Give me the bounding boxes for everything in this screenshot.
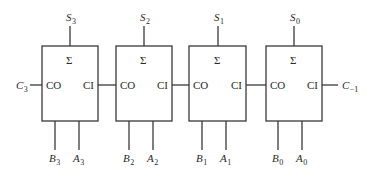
carry-out-label: C3: [16, 80, 28, 92]
co-label: CO: [270, 80, 285, 91]
co-label: CO: [120, 80, 135, 91]
sigma-label: Σ: [140, 55, 146, 66]
sigma-label: Σ: [290, 55, 296, 66]
input-label-b0: B0: [272, 153, 283, 165]
sum-label-s1: S1: [214, 12, 224, 24]
input-label-b3: B3: [49, 153, 60, 165]
input-label-a3: A3: [73, 153, 84, 165]
input-label-a2: A2: [147, 153, 158, 165]
sigma-label: Σ: [66, 55, 72, 66]
sum-label-s3: S3: [66, 12, 76, 24]
co-label: CO: [46, 80, 61, 91]
input-label-a0: A0: [296, 153, 307, 165]
ci-label: CI: [307, 80, 318, 91]
input-label-b1: B1: [196, 153, 207, 165]
input-label-b2: B2: [123, 153, 134, 165]
sum-label-s0: S0: [290, 12, 300, 24]
ci-label: CI: [157, 80, 168, 91]
input-label-a1: A1: [220, 153, 231, 165]
ci-label: CI: [231, 80, 242, 91]
sum-label-s2: S2: [140, 12, 150, 24]
carry-in-label: C−1: [342, 80, 358, 92]
sigma-label: Σ: [214, 55, 220, 66]
co-label: CO: [193, 80, 208, 91]
ci-label: CI: [83, 80, 94, 91]
